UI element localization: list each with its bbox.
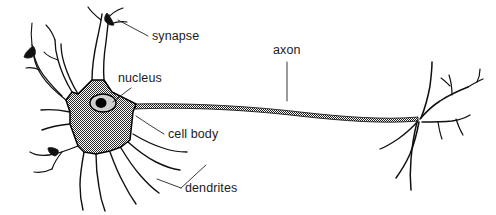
nucleolus [96,98,107,108]
label-nucleus: nucleus [118,71,162,85]
label-axon: axon [273,43,301,57]
nucleus-group [90,94,116,112]
neuron-illustration: synapse nucleus axon cell body dendrites [0,0,496,215]
label-dendrites: dendrites [185,181,237,195]
neuron-diagram: synapse nucleus axon cell body dendrites [0,0,496,215]
label-cell-body: cell body [168,127,219,141]
label-synapse: synapse [152,29,199,43]
